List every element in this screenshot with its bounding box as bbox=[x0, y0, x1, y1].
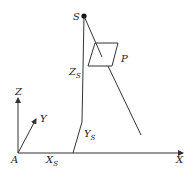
label-a: A bbox=[10, 154, 18, 165]
label-p: P bbox=[120, 53, 128, 64]
projection-center-point bbox=[81, 13, 86, 18]
label-x: X bbox=[175, 154, 184, 165]
label-zs: ZS bbox=[68, 66, 81, 80]
label-z: Z bbox=[14, 86, 23, 97]
label-ys: YS bbox=[84, 128, 96, 142]
image-plane-p bbox=[88, 43, 118, 66]
ray-lower bbox=[108, 66, 141, 135]
projection-center-line bbox=[73, 16, 84, 153]
label-s: S bbox=[73, 11, 80, 22]
diagram-canvas: S P ZS YS XS Z Y X A bbox=[0, 0, 194, 177]
y-axis bbox=[18, 119, 36, 153]
label-y: Y bbox=[40, 113, 48, 124]
label-xs: XS bbox=[45, 154, 58, 168]
